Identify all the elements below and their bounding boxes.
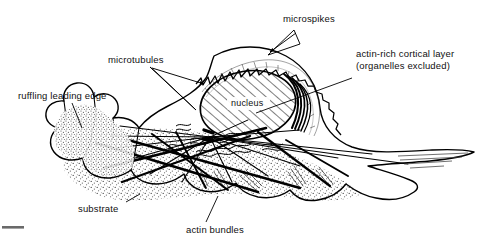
label-microspikes: microspikes <box>283 13 335 25</box>
label-actin-bundles: actin bundles <box>186 224 244 236</box>
diagram-canvas <box>0 0 485 246</box>
leader-microspikes-arrow <box>270 33 296 52</box>
cell-diagram-figure: microtubules microspikes actin-rich cort… <box>0 0 485 246</box>
label-substrate: substrate <box>78 203 118 215</box>
label-actin-rich-cortical-layer: actin-rich cortical layer (organelles ex… <box>356 48 454 71</box>
label-ruffling-leading-edge: ruffling leading edge <box>18 90 107 102</box>
label-microtubules: microtubules <box>108 54 164 66</box>
scale-bar <box>2 226 24 229</box>
label-nucleus: nucleus <box>231 98 263 110</box>
leader-actin-bundles <box>206 196 218 222</box>
